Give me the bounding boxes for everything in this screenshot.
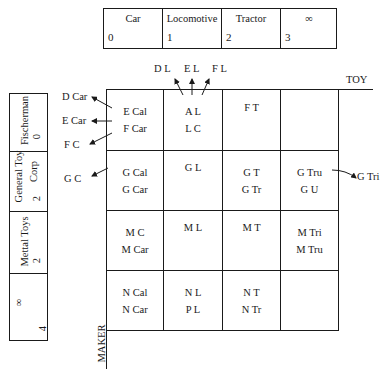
arrow-up-left-icon bbox=[175, 79, 183, 95]
overflow-arrows bbox=[0, 0, 389, 375]
arrow-left-down-icon bbox=[90, 133, 112, 144]
arrow-up-right-icon bbox=[202, 79, 209, 95]
arrow-right-curved-icon bbox=[332, 170, 356, 178]
arrow-left-up-icon bbox=[92, 97, 112, 108]
arrow-left-down-icon bbox=[92, 168, 108, 176]
